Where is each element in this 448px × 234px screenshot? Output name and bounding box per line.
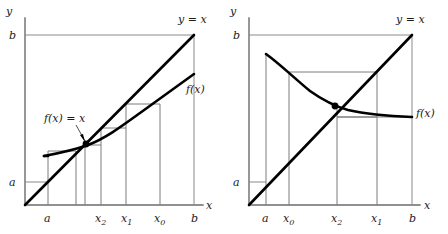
y-axis-label: y — [5, 5, 13, 18]
x-tick-label-b: b — [409, 212, 416, 225]
fixed-point-marker — [332, 103, 339, 110]
x-axis-label: x — [424, 199, 431, 212]
x-tick-label-x1: x1 — [121, 212, 132, 227]
function-curve-label: f(x) — [185, 83, 205, 96]
panel-right-oscillating: y x b a a x0 x2 x1 b y = x f(x) — [224, 0, 448, 234]
x-tick-label-x0: x0 — [283, 212, 294, 227]
fixed-point-label: f(x) = x — [43, 112, 86, 125]
y-tick-label-a: a — [9, 176, 16, 189]
x-tick-label-b: b — [191, 212, 198, 225]
fixed-point-figure: y x b a a x2 x1 x0 b y = x f(x) f(x) = x — [0, 0, 448, 234]
function-curve-fx — [266, 54, 412, 117]
x-tick-label-x0: x0 — [154, 212, 165, 227]
x-tick-label-x2: x2 — [331, 212, 342, 227]
panel-left-monotone: y x b a a x2 x1 x0 b y = x f(x) f(x) = x — [0, 0, 224, 234]
y-tick-label-a: a — [233, 176, 240, 189]
x-tick-label-a: a — [44, 212, 51, 225]
fixed-point-marker — [83, 141, 90, 148]
panel-left-svg: y x b a a x2 x1 x0 b y = x f(x) f(x) = x — [0, 0, 224, 234]
identity-line-label: y = x — [395, 13, 425, 26]
x-axis-label: x — [206, 199, 213, 212]
x-tick-label-x2: x2 — [95, 212, 106, 227]
x-tick-label-a: a — [262, 212, 269, 225]
y-tick-label-b: b — [9, 29, 16, 42]
function-curve-label: f(x) — [415, 107, 435, 120]
x-tick-label-x1: x1 — [371, 212, 382, 227]
y-tick-label-b: b — [233, 29, 240, 42]
y-axis-label: y — [229, 5, 237, 18]
identity-line-label: y = x — [177, 13, 207, 26]
fixed-point-annotation-arrowhead — [80, 134, 85, 142]
panel-right-svg: y x b a a x0 x2 x1 b y = x f(x) — [224, 0, 448, 234]
